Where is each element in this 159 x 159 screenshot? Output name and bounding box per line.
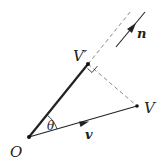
label-vector-n: n [137,26,146,41]
label-v: V [144,99,157,117]
projection-diagram: O V′ V θ v n [0,0,159,159]
label-theta: θ [47,119,55,133]
perpendicular-dashed-line [88,64,137,106]
point-v [135,104,139,108]
label-vector-v: v [85,127,93,142]
right-angle-marker [88,66,98,73]
label-o: O [10,143,22,159]
projection-vector-ov-prime [29,64,88,137]
label-v-prime: V′ [73,47,88,65]
point-o [27,135,31,139]
